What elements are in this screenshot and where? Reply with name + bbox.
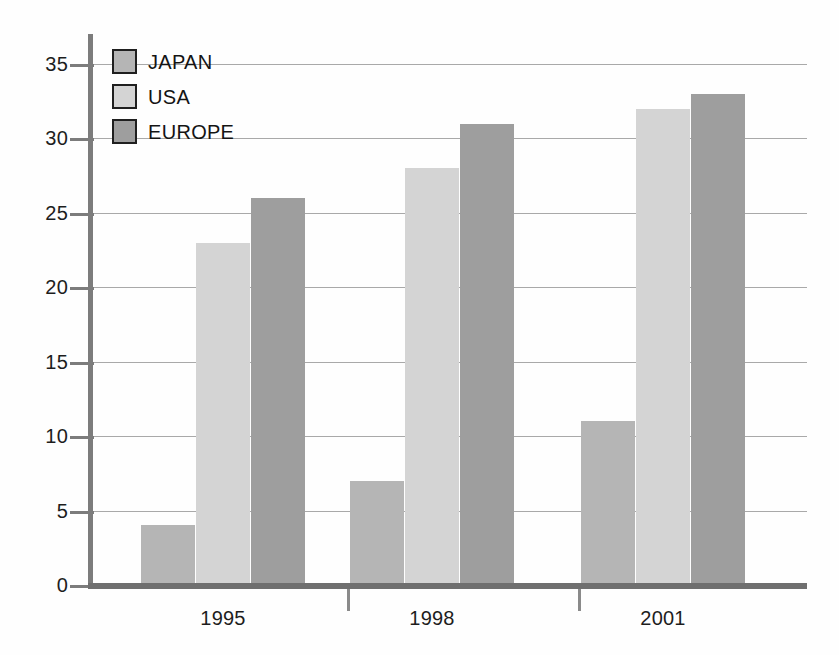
legend-label: USA <box>148 87 190 107</box>
y-tick-20 <box>70 287 94 290</box>
y-tick-10 <box>70 436 94 439</box>
bar-japan-1998 <box>350 481 404 585</box>
y-axis-tick-label: 15 <box>24 352 68 372</box>
bar-usa-2001 <box>636 109 690 585</box>
y-axis-labels: 05101520253035 <box>0 0 68 655</box>
y-axis-line <box>88 34 93 587</box>
bar-usa-1998 <box>405 168 459 585</box>
legend-item-japan: JAPAN <box>112 44 234 79</box>
y-axis-tick-label: 30 <box>24 128 68 148</box>
bar-japan-2001 <box>581 421 635 585</box>
bar-usa-1995 <box>196 243 250 585</box>
y-tick-15 <box>70 362 94 365</box>
legend-swatch-europe <box>112 119 137 144</box>
y-tick-25 <box>70 213 94 216</box>
bar-japan-1995 <box>141 525 195 585</box>
y-axis-tick-label: 20 <box>24 277 68 297</box>
legend-swatch-usa <box>112 84 137 109</box>
legend: JAPANUSAEUROPE <box>112 44 234 149</box>
y-axis-tick-label: 0 <box>24 575 68 595</box>
legend-item-usa: USA <box>112 79 234 114</box>
x-axis-label-1995: 1995 <box>200 608 245 628</box>
x-axis-separator-1 <box>347 589 350 611</box>
y-axis-tick-label: 10 <box>24 426 68 446</box>
legend-item-europe: EUROPE <box>112 114 234 149</box>
y-tick-30 <box>70 138 94 141</box>
bar-europe-1995 <box>251 198 305 585</box>
y-axis-tick-label: 25 <box>24 203 68 223</box>
y-tick-35 <box>70 64 94 67</box>
x-axis-label-1998: 1998 <box>409 608 454 628</box>
legend-label: EUROPE <box>148 122 234 142</box>
y-axis-tick-label: 5 <box>24 501 68 521</box>
y-tick-5 <box>70 511 94 514</box>
bar-europe-1998 <box>460 124 514 585</box>
legend-swatch-japan <box>112 49 137 74</box>
x-axis-line <box>88 583 807 589</box>
x-axis-label-2001: 2001 <box>640 608 685 628</box>
y-axis-tick-label: 35 <box>24 54 68 74</box>
bar-chart: 05101520253035 199519982001 JAPANUSAEURO… <box>0 0 839 655</box>
x-axis-separator-2 <box>578 589 581 611</box>
bar-europe-2001 <box>691 94 745 585</box>
legend-label: JAPAN <box>148 52 212 72</box>
